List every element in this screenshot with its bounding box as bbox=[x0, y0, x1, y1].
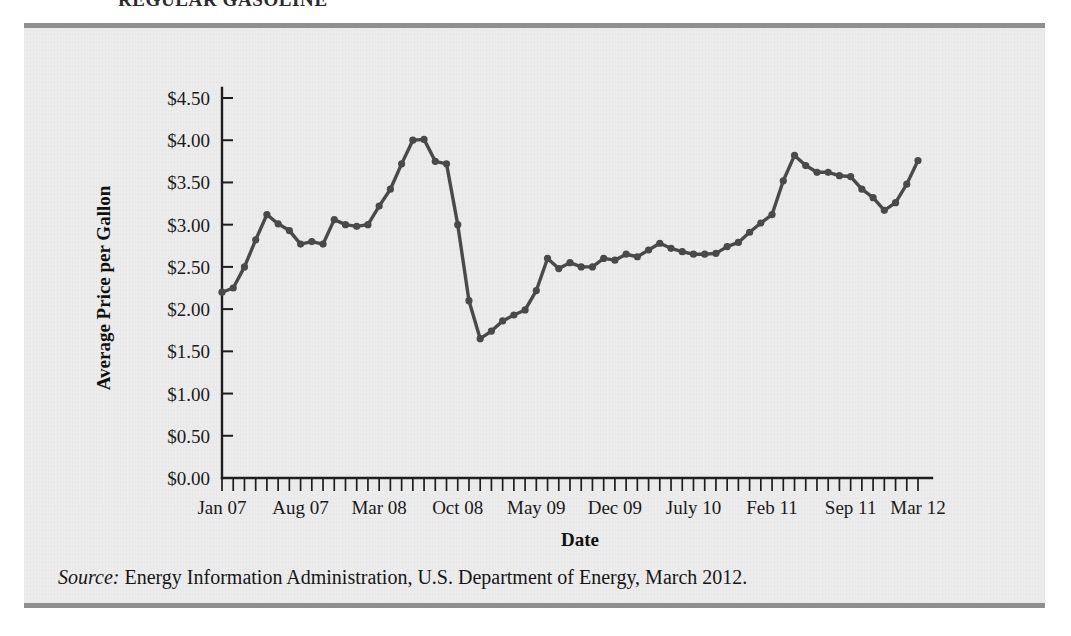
series-marker bbox=[746, 229, 753, 236]
series-marker bbox=[522, 306, 529, 313]
series-marker bbox=[679, 248, 686, 255]
series-marker bbox=[420, 136, 427, 143]
y-tick-label: $0.00 bbox=[167, 468, 210, 489]
series-marker bbox=[881, 207, 888, 214]
series-marker bbox=[353, 223, 360, 230]
series-marker bbox=[690, 251, 697, 258]
series-marker bbox=[477, 335, 484, 342]
series-marker bbox=[331, 216, 338, 223]
x-tick-label: Mar 12 bbox=[890, 497, 945, 518]
series-marker bbox=[578, 263, 585, 270]
series-marker bbox=[634, 253, 641, 260]
line-chart: $0.00$0.50$1.00$1.50$2.00$2.50$3.00$3.50… bbox=[24, 28, 1045, 603]
series-marker bbox=[533, 287, 540, 294]
y-tick-label: $4.50 bbox=[167, 88, 210, 109]
y-tick-label: $2.50 bbox=[167, 257, 210, 278]
source-caption: Source: Energy Information Administratio… bbox=[58, 566, 747, 589]
series-marker bbox=[376, 202, 383, 209]
series-marker bbox=[825, 169, 832, 176]
y-tick-label: $4.00 bbox=[167, 130, 210, 151]
x-tick-label: May 09 bbox=[507, 497, 566, 518]
series-marker bbox=[645, 246, 652, 253]
page-root: REGULAR GASOLINE $0.00$0.50$1.00$1.50$2.… bbox=[0, 0, 1071, 636]
source-label: Source: bbox=[58, 566, 119, 588]
series-marker bbox=[252, 236, 259, 243]
series-marker bbox=[858, 186, 865, 193]
y-tick-label: $1.50 bbox=[167, 341, 210, 362]
x-tick-label: Jan 07 bbox=[197, 497, 246, 518]
source-text: Energy Information Administration, U.S. … bbox=[119, 566, 747, 588]
axis-titles-group: Average Price per GallonDate bbox=[93, 185, 599, 550]
x-tick-label: Feb 11 bbox=[746, 497, 798, 518]
series-marker bbox=[780, 177, 787, 184]
series-marker bbox=[443, 160, 450, 167]
y-tick-label: $1.00 bbox=[167, 384, 210, 405]
series-marker bbox=[589, 263, 596, 270]
series-marker bbox=[757, 219, 764, 226]
x-tick-label: Aug 07 bbox=[272, 497, 328, 518]
x-axis-group: Jan 07Aug 07Mar 08Oct 08May 09Dec 09July… bbox=[197, 478, 945, 518]
series-marker bbox=[465, 297, 472, 304]
series-marker bbox=[241, 263, 248, 270]
series-marker bbox=[218, 289, 225, 296]
y-axis-group: $0.00$0.50$1.00$1.50$2.00$2.50$3.00$3.50… bbox=[167, 88, 233, 489]
y-tick-label: $2.00 bbox=[167, 299, 210, 320]
series-marker bbox=[623, 251, 630, 258]
series-marker bbox=[813, 169, 820, 176]
series-marker bbox=[701, 251, 708, 258]
series-marker bbox=[566, 259, 573, 266]
x-tick-label: July 10 bbox=[666, 497, 721, 518]
series-marker bbox=[454, 221, 461, 228]
series-marker bbox=[286, 227, 293, 234]
x-tick-label: Oct 08 bbox=[432, 497, 483, 518]
series-marker bbox=[903, 181, 910, 188]
series-marker bbox=[712, 250, 719, 257]
series-marker bbox=[870, 194, 877, 201]
x-tick-label: Dec 09 bbox=[588, 497, 642, 518]
series-marker bbox=[230, 284, 237, 291]
series-marker bbox=[600, 255, 607, 262]
y-tick-label: $3.50 bbox=[167, 172, 210, 193]
y-tick-label: $3.00 bbox=[167, 215, 210, 236]
bottom-rule bbox=[24, 603, 1045, 608]
series-marker bbox=[308, 238, 315, 245]
y-tick-label: $0.50 bbox=[167, 426, 210, 447]
x-tick-label: Mar 08 bbox=[351, 497, 406, 518]
series-marker bbox=[488, 327, 495, 334]
y-axis-title: Average Price per Gallon bbox=[93, 185, 114, 390]
series-marker bbox=[510, 311, 517, 318]
series-marker bbox=[724, 243, 731, 250]
series-marker bbox=[836, 172, 843, 179]
figure-heading: REGULAR GASOLINE bbox=[118, 0, 618, 11]
series-marker bbox=[611, 257, 618, 264]
series-marker bbox=[802, 162, 809, 169]
series-marker bbox=[735, 239, 742, 246]
series-marker bbox=[892, 199, 899, 206]
series-marker bbox=[667, 245, 674, 252]
series-marker bbox=[263, 211, 270, 218]
series-marker bbox=[409, 137, 416, 144]
x-tick-label: Sep 11 bbox=[825, 497, 877, 518]
series-marker bbox=[432, 158, 439, 165]
series-marker bbox=[768, 211, 775, 218]
series-marker bbox=[319, 240, 326, 247]
series-marker bbox=[791, 152, 798, 159]
chart-svg: $0.00$0.50$1.00$1.50$2.00$2.50$3.00$3.50… bbox=[24, 28, 1045, 603]
x-axis-title: Date bbox=[561, 529, 599, 550]
series-marker bbox=[656, 240, 663, 247]
series-line bbox=[222, 139, 918, 338]
series-marker bbox=[544, 255, 551, 262]
series-marker bbox=[499, 317, 506, 324]
series-marker bbox=[847, 173, 854, 180]
series-marker bbox=[364, 221, 371, 228]
series-marker bbox=[275, 220, 282, 227]
series-marker bbox=[387, 186, 394, 193]
figure-panel: $0.00$0.50$1.00$1.50$2.00$2.50$3.00$3.50… bbox=[24, 28, 1045, 603]
series-marker bbox=[297, 240, 304, 247]
series-marker bbox=[914, 157, 921, 164]
series-group bbox=[218, 136, 921, 342]
series-marker bbox=[555, 265, 562, 272]
series-marker bbox=[398, 160, 405, 167]
series-marker bbox=[342, 221, 349, 228]
